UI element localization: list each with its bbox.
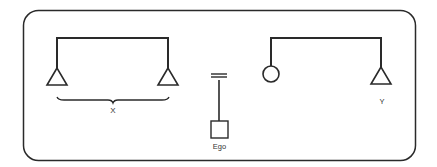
male-triangle-icon bbox=[47, 68, 67, 85]
male-triangle-icon bbox=[158, 68, 178, 85]
male-triangle-icon bbox=[371, 67, 391, 84]
left-sibling-group: X bbox=[47, 38, 178, 115]
label-y: Y bbox=[379, 97, 384, 106]
sibling-bar-left bbox=[57, 38, 168, 68]
label-ego: Ego bbox=[213, 142, 226, 151]
brace-icon bbox=[57, 97, 169, 103]
ego-square-icon bbox=[211, 121, 228, 138]
label-x: X bbox=[110, 106, 116, 115]
female-circle-icon bbox=[263, 66, 279, 82]
ego-group: Ego bbox=[211, 74, 228, 151]
kinship-diagram: X Ego Y bbox=[0, 0, 437, 167]
sibling-bar-right bbox=[271, 38, 381, 67]
right-sibling-group: Y bbox=[263, 38, 391, 106]
